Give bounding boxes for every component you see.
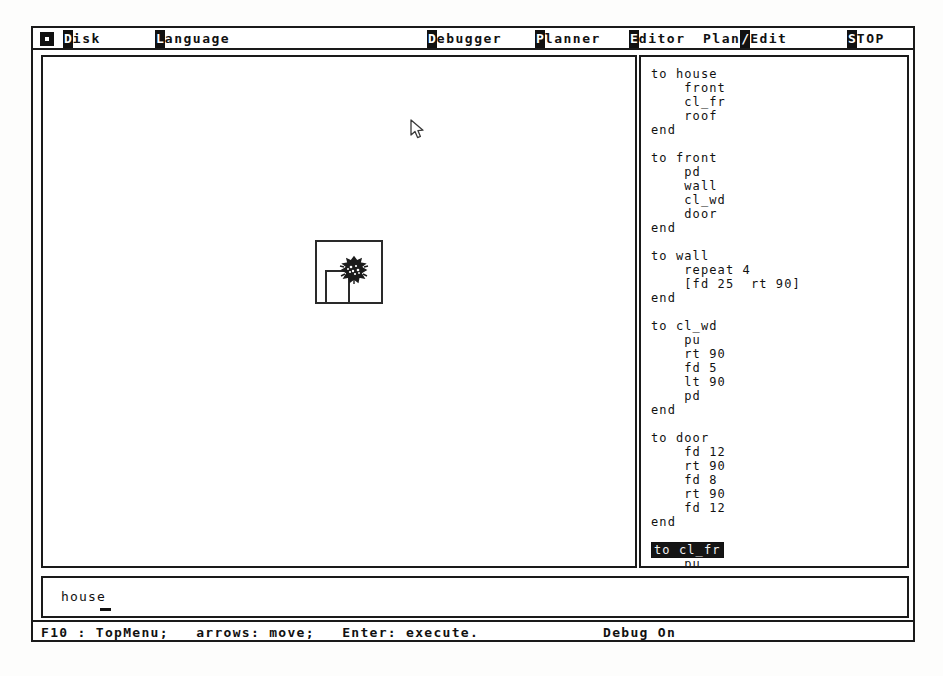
menu-hotkey-disk: D	[63, 30, 73, 48]
code-line-text: pu	[651, 557, 701, 568]
code-line[interactable]	[651, 525, 903, 539]
menu-hotkey-stop: S	[847, 30, 857, 48]
menu-hotkey-language: L	[155, 30, 165, 48]
code-line[interactable]: rt 90	[651, 483, 903, 497]
command-line-pane[interactable]: house	[41, 576, 909, 618]
command-line-input[interactable]: house	[61, 589, 106, 604]
mode-separator-icon: /	[740, 30, 750, 48]
menu-hotkey-debugger: D	[427, 30, 437, 48]
mouse-pointer-icon	[410, 119, 426, 141]
menu-hotkey-editor: E	[629, 30, 639, 48]
code-line[interactable]: pu	[651, 553, 903, 567]
code-line[interactable]: fd 5	[651, 357, 903, 371]
code-line[interactable]: to cl_fr	[651, 539, 903, 553]
scanned-page-background: Disk Language Debugger Planner Editor Pl…	[0, 0, 943, 676]
code-line[interactable]: pu	[651, 329, 903, 343]
procedure-editor-pane[interactable]: to house front cl_fr roofendto front pd …	[639, 55, 909, 568]
menu-hotkey-planner: P	[535, 30, 545, 48]
menu-mode-switch-plan-edit[interactable]: Plan/Edit	[703, 30, 787, 48]
code-line[interactable]	[651, 413, 903, 427]
code-line[interactable]: lt 90	[651, 371, 903, 385]
menu-label-disk: isk	[73, 31, 101, 46]
menu-label-stop: TOP	[857, 31, 885, 46]
menu-label-language: anguage	[165, 31, 230, 46]
code-line[interactable]: pd	[651, 161, 903, 175]
code-line-text: end	[651, 515, 676, 529]
code-line[interactable]: repeat 4	[651, 259, 903, 273]
code-line-text: end	[651, 221, 676, 235]
menu-item-language[interactable]: Language	[155, 30, 230, 48]
turtle-graphics-canvas[interactable]	[41, 55, 637, 568]
text-caret	[100, 608, 111, 611]
mode-label-edit: Edit	[750, 31, 787, 46]
code-line[interactable]: to cl_wd	[651, 315, 903, 329]
code-line[interactable]: to front	[651, 147, 903, 161]
menu-item-debugger[interactable]: Debugger	[427, 30, 502, 48]
application-window: Disk Language Debugger Planner Editor Pl…	[31, 26, 915, 642]
status-key-hints: F10 : TopMenu; arrows: move; Enter: exec…	[41, 625, 479, 640]
turtle-sprite-icon	[339, 255, 369, 285]
code-line[interactable]	[651, 301, 903, 315]
status-debug-indicator: Debug On	[603, 625, 676, 640]
code-line[interactable]: rt 90	[651, 567, 903, 568]
menu-label-editor: ditor	[639, 31, 686, 46]
code-line[interactable]: front	[651, 77, 903, 91]
code-line[interactable]: to house	[651, 63, 903, 77]
code-line[interactable]: to wall	[651, 245, 903, 259]
code-line[interactable]: cl_fr	[651, 91, 903, 105]
menu-item-stop[interactable]: STOP	[847, 30, 885, 48]
menu-label-debugger: ebugger	[437, 31, 502, 46]
code-line[interactable]: roof	[651, 105, 903, 119]
menu-item-disk[interactable]: Disk	[63, 30, 101, 48]
code-line[interactable]: rt 90	[651, 343, 903, 357]
code-line-text: end	[651, 403, 676, 417]
code-line[interactable]: door	[651, 203, 903, 217]
code-line[interactable]: pd	[651, 385, 903, 399]
code-line[interactable]: to door	[651, 427, 903, 441]
procedure-code-listing: to house front cl_fr roofendto front pd …	[651, 63, 903, 568]
status-bar: F10 : TopMenu; arrows: move; Enter: exec…	[33, 620, 913, 640]
mode-label-plan: Plan	[703, 31, 740, 46]
code-line[interactable]: rt 90	[651, 455, 903, 469]
code-line-text: end	[651, 123, 676, 137]
menu-item-planner[interactable]: Planner	[535, 30, 601, 48]
menu-label-planner: lanner	[545, 31, 601, 46]
code-line[interactable]: [fd 25 rt 90]	[651, 273, 903, 287]
code-line[interactable]	[651, 133, 903, 147]
code-line[interactable]: fd 8	[651, 469, 903, 483]
system-menu-icon[interactable]	[40, 32, 54, 46]
code-line[interactable]	[651, 231, 903, 245]
code-line[interactable]: cl_wd	[651, 189, 903, 203]
menu-bar: Disk Language Debugger Planner Editor Pl…	[33, 28, 913, 50]
code-line-text: end	[651, 291, 676, 305]
code-line[interactable]: fd 12	[651, 441, 903, 455]
menu-item-editor[interactable]: Editor	[629, 30, 685, 48]
code-line[interactable]: wall	[651, 175, 903, 189]
code-line[interactable]: fd 12	[651, 497, 903, 511]
